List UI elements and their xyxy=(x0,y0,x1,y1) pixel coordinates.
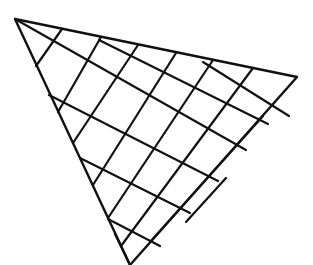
grid-line-a8 xyxy=(186,178,226,222)
triangle-grid-diagram xyxy=(0,0,313,265)
grid-line-a1 xyxy=(36,29,62,66)
triangle-outline xyxy=(15,19,297,265)
grid-line-b4 xyxy=(49,95,218,181)
grid-line-b1 xyxy=(203,62,289,116)
grid-line-a7 xyxy=(150,116,263,242)
grid-line-b3 xyxy=(15,19,246,150)
grid-line-b5 xyxy=(80,158,190,213)
grid-line-a4 xyxy=(93,53,176,185)
